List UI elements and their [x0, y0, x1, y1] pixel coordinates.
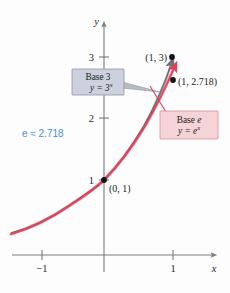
point-1-3	[169, 54, 175, 60]
axes-group: 3 2 1 −1 1 y x	[12, 16, 217, 274]
y-axis-label: y	[93, 16, 99, 27]
point-label-1-2718: (1, 2.718)	[178, 76, 217, 88]
exponential-functions-figure: 3 2 1 −1 1 y x (1, 3) (1, 2.718) (0	[0, 0, 230, 293]
x-tick-label-1: 1	[170, 263, 175, 274]
y-tick-label-3: 3	[89, 52, 94, 63]
e-approximation-note: e ≈ 2.718	[22, 128, 64, 139]
x-tick-label-neg1: −1	[36, 263, 47, 274]
callout-base-3-title: Base 3	[85, 72, 110, 82]
point-0-1	[101, 177, 107, 183]
callout-base-e-formula: y = ex	[177, 124, 200, 136]
y-tick-label-1: 1	[89, 175, 94, 186]
callout-base-3-formula: y = 3x	[89, 81, 113, 93]
x-axis-label: x	[211, 263, 217, 274]
graph-canvas: 3 2 1 −1 1 y x (1, 3) (1, 2.718) (0	[0, 0, 230, 293]
point-label-1-3: (1, 3)	[145, 52, 167, 64]
y-tick-label-2: 2	[89, 113, 94, 124]
point-1-2718	[170, 77, 176, 83]
callout-base-3: Base 3 y = 3x	[72, 69, 160, 95]
callout-base-3-leader	[122, 82, 160, 92]
point-label-0-1: (0, 1)	[109, 183, 131, 195]
